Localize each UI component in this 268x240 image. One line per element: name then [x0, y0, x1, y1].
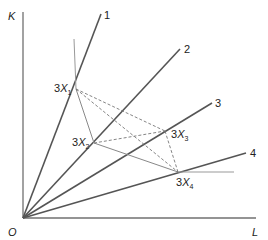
isoquant-diagram: K L O 1 2 3 4 3X1 3X2 3X3 3X4	[0, 0, 268, 240]
ray-2	[23, 49, 180, 218]
ray-2-label: 2	[184, 43, 190, 55]
ray-1	[23, 14, 101, 218]
ray-1-label: 1	[104, 9, 110, 21]
ray-4	[23, 153, 246, 218]
isoquant-x1-x2	[76, 89, 94, 143]
point-3x4-label: 3X4	[176, 176, 193, 190]
dashed-x2-x3	[94, 131, 165, 143]
point-3x2-label: 3X2	[72, 136, 89, 150]
ray-3	[23, 103, 212, 218]
k-axis-label: K	[8, 10, 16, 22]
dashed-x1-x4	[76, 89, 178, 172]
ray-4-label: 4	[250, 147, 256, 159]
point-3x3-label: 3X3	[171, 128, 188, 142]
point-3x1-label: 3X1	[54, 82, 71, 96]
ray-3-label: 3	[215, 97, 221, 109]
l-axis-label: L	[252, 226, 258, 238]
origin-label: O	[8, 226, 17, 238]
